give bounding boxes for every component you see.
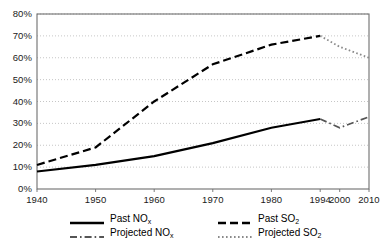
x-axis-tick-label: 1940 <box>17 194 57 205</box>
legend-item: Past NOx <box>70 212 151 225</box>
y-axis-tick-label: 20% <box>0 139 32 150</box>
x-axis-tick-label: 1970 <box>193 194 233 205</box>
legend-label-subscript: x <box>170 232 174 239</box>
legend-line-swatch <box>218 214 252 224</box>
legend-line-swatch <box>218 228 252 238</box>
y-axis-tick-label: 30% <box>0 117 32 128</box>
series-line-1 <box>320 117 369 128</box>
legend-label-main: Past SO <box>258 213 295 224</box>
legend-label-main: Projected NO <box>110 227 170 238</box>
legend-label-main: Projected SO <box>258 227 317 238</box>
legend-label: Projected SO2 <box>258 227 321 239</box>
legend-label: Past SO2 <box>258 213 299 225</box>
legend-label: Projected NOx <box>110 227 174 239</box>
y-axis-tick-label: 10% <box>0 161 32 172</box>
x-axis-tick-label: 1960 <box>134 194 174 205</box>
x-axis-tick-label: 1950 <box>76 194 116 205</box>
legend-label-subscript: x <box>148 218 152 225</box>
x-axis-tick-label: 2010 <box>349 194 384 205</box>
legend-label-subscript: 2 <box>295 218 299 225</box>
legend-item: Projected SO2 <box>218 226 321 239</box>
x-axis-tick-label: 1980 <box>251 194 291 205</box>
legend-item: Past SO2 <box>218 212 299 225</box>
legend-label-main: Past NO <box>110 213 148 224</box>
data-series <box>37 36 369 172</box>
y-axis-tick-label: 60% <box>0 52 32 63</box>
y-axis-tick-label: 40% <box>0 96 32 107</box>
legend-line-swatch <box>70 214 104 224</box>
series-line-3 <box>320 36 369 58</box>
y-axis-tick-label: 50% <box>0 74 32 85</box>
legend-line-swatch <box>70 228 104 238</box>
legend-item: Projected NOx <box>70 226 174 239</box>
legend-label: Past NOx <box>110 213 151 225</box>
y-axis-tick-label: 80% <box>0 8 32 19</box>
legend-label-subscript: 2 <box>317 232 321 239</box>
y-axis-tick-label: 0% <box>0 183 32 194</box>
y-axis-tick-label: 70% <box>0 30 32 41</box>
chart-legend: Past NOxProjected NOxPast SO2Projected S… <box>0 210 379 244</box>
